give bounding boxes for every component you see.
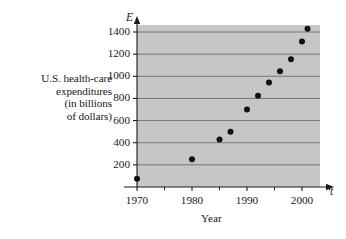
data-point-1994 [266, 79, 272, 85]
x-tick-label-2000: 2000 [282, 194, 322, 206]
x-axis-symbol: t [330, 185, 333, 197]
y-axis-title-line-1: U.S. health-care [8, 72, 112, 85]
y-axis-title-line-3: (in billions [8, 97, 112, 110]
data-point-1998 [288, 56, 294, 62]
y-tick-label-600: 600 [113, 114, 130, 126]
x-axis-title: Year [201, 212, 222, 224]
data-point-2000 [299, 38, 305, 44]
plot-area-background [137, 25, 320, 187]
y-tick-label-200: 200 [113, 158, 130, 170]
data-point-1990 [244, 107, 250, 113]
data-point-1985 [217, 136, 223, 142]
data-point-2001 [305, 26, 311, 32]
y-axis-title-line-2: expenditures [8, 85, 112, 98]
data-point-1970 [134, 176, 140, 182]
figure-container: U.S. health-care expenditures (in billio… [0, 0, 346, 239]
y-axis-title-line-4: of dollars) [8, 110, 112, 123]
y-tick-label-1200: 1200 [108, 47, 130, 59]
x-tick-label-1980: 1980 [172, 194, 212, 206]
y-axis-arrowhead [134, 16, 140, 24]
y-tick-label-1400: 1400 [108, 25, 130, 37]
y-axis-symbol: E [126, 11, 133, 23]
y-tick-label-800: 800 [113, 91, 130, 103]
x-tick-label-1970: 1970 [117, 194, 157, 206]
data-point-1996 [277, 68, 283, 74]
y-axis-title: U.S. health-care expenditures (in billio… [8, 72, 112, 122]
data-point-1980 [189, 156, 195, 162]
data-point-1992 [255, 93, 261, 99]
y-tick-label-400: 400 [113, 136, 130, 148]
x-tick-label-1990: 1990 [227, 194, 267, 206]
data-point-1987 [228, 129, 234, 135]
y-tick-label-1000: 1000 [108, 69, 130, 81]
